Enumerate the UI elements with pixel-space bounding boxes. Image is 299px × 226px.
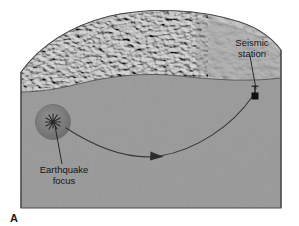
figure-part-label: A [10,212,18,224]
seismic-station-label-line2: station [223,49,281,60]
earthquake-focus-label-line1: Earthquake [27,165,101,176]
earthquake-block-diagram [0,0,299,226]
seismic-station-label: Seismic station [223,38,281,59]
focus-hypocentre-dot [51,120,55,124]
earthquake-focus-label: Earthquake focus [27,165,101,186]
station-instrument-box [252,93,259,100]
earthquake-focus-marker [36,105,71,140]
seismic-station-label-line1: Seismic [223,38,281,49]
earthquake-focus-label-line2: focus [27,176,101,187]
figure-root: Seismic station Earthquake focus A [0,0,299,226]
